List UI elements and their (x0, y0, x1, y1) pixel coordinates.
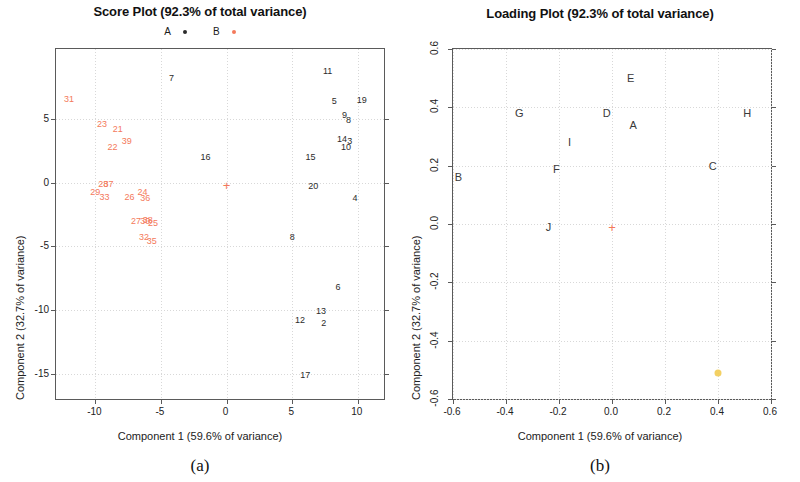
y-axis-tick-label: 5 (25, 113, 49, 124)
x-axis-tick-label: -0.2 (549, 406, 566, 417)
x-axis-tick (227, 399, 228, 404)
data-point-label: G (515, 108, 524, 119)
x-axis-tick-label: 0.4 (710, 406, 724, 417)
y-axis-tick-label: 0 (25, 176, 49, 187)
loading-plot-x-axis-title: Component 1 (59.6% of variance) (400, 430, 800, 442)
x-axis-tick-label: 0.0 (604, 406, 618, 417)
x-axis-tick (559, 399, 560, 404)
data-point-label: 13 (316, 307, 326, 316)
x-axis-tick-label: -0.4 (496, 406, 513, 417)
x-axis-tick (95, 399, 96, 404)
y-axis-tick-label: 0.6 (429, 36, 440, 60)
x-axis-tick (453, 399, 454, 404)
x-axis-tick (771, 399, 772, 404)
legend-entry-b: B (213, 26, 236, 37)
gridline-vertical (771, 49, 772, 399)
data-point-label: 15 (306, 153, 316, 162)
x-axis-tick-label: -0.6 (443, 406, 460, 417)
gridline-vertical (665, 49, 666, 399)
gridline-horizontal (56, 310, 384, 311)
y-axis-tick-label: 0.4 (429, 94, 440, 118)
x-axis-tick (358, 399, 359, 404)
data-point-label: 8 (290, 233, 295, 242)
data-point-label: 17 (300, 370, 310, 379)
y-axis-tick (51, 119, 56, 120)
gridline-horizontal (56, 374, 384, 375)
loading-plot-title: Loading Plot (92.3% of total variance) (400, 6, 800, 21)
data-point-label: 12 (295, 316, 305, 325)
data-point-label: 11 (323, 66, 332, 75)
highlight-marker (715, 369, 722, 376)
loading-plot-panel: Loading Plot (92.3% of total variance) E… (400, 0, 800, 482)
data-point-label: 23 (97, 120, 107, 129)
y-axis-tick (51, 374, 56, 375)
data-point-label: 26 (124, 192, 134, 201)
legend-label-b: B (213, 26, 220, 37)
gridline-vertical (95, 49, 96, 399)
x-axis-tick (292, 399, 293, 404)
data-point-label: 39 (122, 136, 132, 145)
loading-plot-frame: EGDHAIFCBJ+ (452, 48, 772, 400)
data-point-label: B (455, 172, 462, 183)
data-point-label: J (546, 221, 552, 232)
y-axis-tick (51, 310, 56, 311)
data-point-label: 31 (64, 94, 74, 103)
y-axis-tick-label: -5 (25, 240, 49, 251)
data-point-label: 20 (308, 182, 318, 191)
y-axis-tick (51, 246, 56, 247)
y-axis-tick-label: -10 (25, 303, 49, 314)
data-point-label: F (553, 163, 560, 174)
data-point-label: 21 (113, 125, 123, 134)
data-point-label: 2 (321, 318, 326, 327)
y-axis-tick-label: 0.0 (429, 211, 440, 235)
data-point-label: 25 (148, 219, 158, 228)
legend-dot-a-icon (183, 30, 187, 34)
data-point-label: 22 (107, 143, 117, 152)
data-point-label: 16 (201, 153, 211, 162)
y-axis-tick-right (384, 183, 389, 184)
panel-a-caption: (a) (0, 456, 400, 476)
data-point-label: I (568, 137, 571, 148)
data-point-label: 36 (140, 193, 150, 202)
data-point-label: 7 (169, 74, 174, 83)
gridline-vertical (506, 49, 507, 399)
x-axis-tick-label: -10 (87, 406, 101, 417)
x-axis-tick (718, 399, 719, 404)
y-axis-tick-right (384, 119, 389, 120)
y-axis-tick-label: -0.6 (429, 386, 440, 410)
data-point-label: A (630, 119, 637, 130)
score-plot-title: Score Plot (92.3% of total variance) (0, 4, 400, 19)
gridline-vertical (161, 49, 162, 399)
x-axis-tick (612, 399, 613, 404)
data-point-label: 10 (341, 143, 351, 152)
gridline-vertical (453, 49, 454, 399)
data-point-label: 8 (346, 116, 351, 125)
legend-entry-a: A (164, 26, 187, 37)
legend-label-a: A (164, 26, 171, 37)
score-plot-frame: 7115199814310161520486131221731232139222… (55, 48, 385, 400)
y-axis-tick-label: -0.2 (429, 269, 440, 293)
x-axis-tick (506, 399, 507, 404)
y-axis-tick-right (384, 246, 389, 247)
data-point-label: 35 (147, 237, 157, 246)
gridline-horizontal (56, 246, 384, 247)
centroid-marker: + (608, 220, 616, 233)
data-point-label: H (743, 108, 751, 119)
legend-dot-b-icon (232, 30, 236, 34)
gridline-vertical (559, 49, 560, 399)
data-point-label: D (603, 108, 611, 119)
y-axis-tick-right (384, 310, 389, 311)
y-axis-tick-right (384, 374, 389, 375)
gridline-vertical (718, 49, 719, 399)
data-point-label: 6 (336, 283, 341, 292)
data-point-label: 37 (103, 179, 113, 188)
x-axis-tick-label: -5 (156, 406, 165, 417)
score-plot-legend: A B (0, 26, 400, 37)
y-axis-tick (51, 183, 56, 184)
score-plot-x-axis-title: Component 1 (59.6% of variance) (0, 430, 400, 442)
x-axis-tick-label: 0 (223, 406, 229, 417)
gridline-vertical (292, 49, 293, 399)
panel-b-caption: (b) (400, 456, 800, 476)
centroid-marker: + (223, 179, 231, 192)
figure-container: Score Plot (92.3% of total variance) A B… (0, 0, 800, 482)
